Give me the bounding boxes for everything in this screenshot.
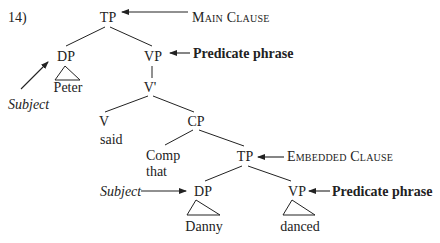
embedded-clause-annotation: Embedded Clause [287,149,393,165]
leaf-danny: Danny [185,219,222,235]
root-tp-node: TP [100,10,116,26]
leaf-danced: danced [280,219,320,235]
comp-node: Comp [146,148,180,164]
main-clause-annotation: Main Clause [192,10,269,26]
leaf-peter: Peter [54,80,83,96]
example-number: 14) [8,10,27,26]
main-vp-node: VP [144,49,162,65]
embedded-vp-node: VP [288,184,306,200]
v-bar-node: V' [144,80,157,96]
embedded-dp-node: DP [194,184,212,200]
subject-annotation-main: Subject [8,97,49,113]
leaf-said: said [100,132,123,148]
cp-node: CP [187,114,204,130]
subject-dp-node: DP [57,49,75,65]
embedded-predicate-annotation: Predicate phrase [332,184,432,200]
subject-annotation-embedded: Subject [100,184,141,200]
main-predicate-annotation: Predicate phrase [193,46,293,62]
verb-node: V [99,114,109,130]
tree-branches [0,0,440,243]
embedded-tp-node: TP [237,149,253,165]
leaf-that: that [146,164,167,180]
